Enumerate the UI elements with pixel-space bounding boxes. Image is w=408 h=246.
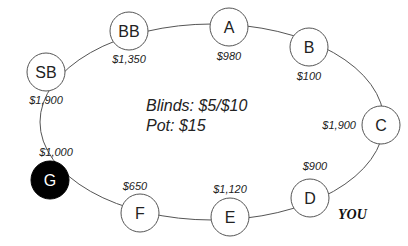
seat-label: D — [304, 190, 316, 207]
stack-sb: $1,900 — [28, 94, 64, 106]
seat-c[interactable]: C — [362, 106, 400, 144]
you-label: YOU — [338, 207, 368, 222]
seat-g[interactable]: G — [31, 161, 69, 199]
seat-sb[interactable]: SB — [27, 53, 65, 91]
stack-e: $1,120 — [212, 183, 248, 195]
seat-label: E — [225, 209, 236, 226]
stack-a: $980 — [216, 50, 242, 62]
seat-d[interactable]: D — [291, 179, 329, 217]
seat-e[interactable]: E — [211, 198, 249, 236]
stack-f: $650 — [122, 180, 148, 192]
blinds-text: Blinds: $5/$10 — [146, 97, 248, 114]
seat-label: G — [44, 172, 56, 189]
stack-d: $900 — [302, 160, 328, 172]
seat-bb[interactable]: BB — [110, 12, 148, 50]
seat-a[interactable]: A — [210, 8, 248, 46]
seat-f[interactable]: F — [121, 194, 159, 232]
seat-label: B — [304, 39, 315, 56]
stack-c: $1,900 — [321, 119, 357, 131]
poker-table-diagram: Blinds: $5/$10 Pot: $15 SB $1,900 BB $1,… — [0, 0, 408, 246]
stack-b: $100 — [296, 70, 322, 82]
stack-g: $1,000 — [38, 146, 74, 158]
seat-label: F — [135, 205, 145, 222]
seat-b[interactable]: B — [290, 28, 328, 66]
seat-label: A — [224, 19, 235, 36]
stack-bb: $1,350 — [111, 53, 147, 65]
pot-text: Pot: $15 — [146, 117, 206, 134]
seat-label: BB — [118, 23, 139, 40]
seat-label: C — [375, 117, 387, 134]
seat-label: SB — [35, 64, 56, 81]
